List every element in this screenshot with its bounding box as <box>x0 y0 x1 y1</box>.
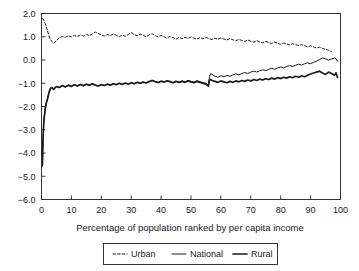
y-tick-label: −3.0 <box>18 125 36 135</box>
x-tick-label: 90 <box>306 205 316 215</box>
y-tick-label: −4.0 <box>18 148 36 158</box>
x-tick-label: 100 <box>333 205 348 215</box>
legend-label-rural: Rural <box>251 249 273 259</box>
y-tick-label: −6.0 <box>18 195 36 205</box>
y-tick-label: −5.0 <box>18 172 36 182</box>
axis-ticks <box>42 14 341 200</box>
legend: UrbanNationalRural <box>104 244 278 265</box>
x-tick-label: 80 <box>276 205 286 215</box>
y-tick-label: 1.0 <box>23 32 36 42</box>
chart-figure: 0102030405060708090100 2.01.00.0−1.0−2.0… <box>0 0 359 271</box>
y-tick-label: 0.0 <box>23 55 36 65</box>
y-tick-label: 2.0 <box>23 9 36 19</box>
plot-frame <box>42 14 341 200</box>
y-tick-label: −2.0 <box>18 102 36 112</box>
x-tick-label: 20 <box>96 205 106 215</box>
x-tick-label: 60 <box>216 205 226 215</box>
y-tick-labels: 2.01.00.0−1.0−2.0−3.0−4.0−5.0−6.0 <box>18 9 36 205</box>
x-tick-label: 30 <box>126 205 136 215</box>
series-line-urban <box>43 19 332 52</box>
x-tick-labels: 0102030405060708090100 <box>39 205 348 215</box>
x-tick-label: 40 <box>156 205 166 215</box>
legend-label-national: National <box>190 249 223 259</box>
x-tick-label: 70 <box>246 205 256 215</box>
y-tick-label: −1.0 <box>18 79 36 89</box>
series-line-rural <box>42 71 337 166</box>
x-tick-label: 10 <box>66 205 76 215</box>
x-axis-title: Percentage of population ranked by per c… <box>76 222 304 233</box>
legend-label-urban: Urban <box>131 249 156 259</box>
x-tick-label: 50 <box>186 205 196 215</box>
plot-area <box>42 19 337 166</box>
series-line-national <box>42 58 337 166</box>
x-tick-label: 0 <box>39 205 44 215</box>
